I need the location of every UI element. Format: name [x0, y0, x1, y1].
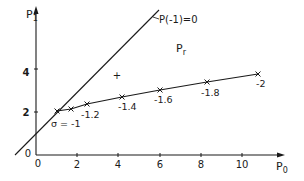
sigma-label: σ = -1 — [51, 118, 81, 129]
region-label: Pr — [176, 42, 187, 57]
point-label-1-8: -1.8 — [201, 87, 220, 98]
point-label-1-4: -1.4 — [118, 101, 137, 112]
x-axis-label: P0 — [276, 160, 288, 175]
line-label: P(-1)=0 — [159, 14, 198, 25]
y-axis-arrow-icon — [34, 6, 39, 14]
x-axis-arrow-icon — [277, 153, 285, 158]
x-tick-6: 6 — [157, 159, 163, 170]
point-label-2: -2 — [256, 78, 265, 89]
point-label-1-6: -1.6 — [154, 94, 173, 105]
x-tick-2: 2 — [74, 159, 80, 170]
x-tick-8: 8 — [198, 159, 204, 170]
point-label-1-2: -1.2 — [81, 109, 100, 120]
plus-marker: + — [113, 70, 121, 81]
axes — [36, 10, 280, 155]
y-tick-4: 4 — [23, 67, 30, 78]
x-tick-10: 10 — [236, 159, 249, 170]
p-minus-one-line — [15, 10, 159, 155]
y-tick-0: 0 — [25, 148, 31, 159]
y-tick-2: 2 — [23, 107, 30, 118]
figure: 0 2 4 0 2 4 6 8 10 P1 P0 P(-1)=0 Pr + σ … — [0, 0, 304, 181]
x-tick-0: 0 — [35, 158, 41, 169]
curve-markers — [55, 72, 261, 114]
x-tick-4: 4 — [115, 159, 121, 170]
